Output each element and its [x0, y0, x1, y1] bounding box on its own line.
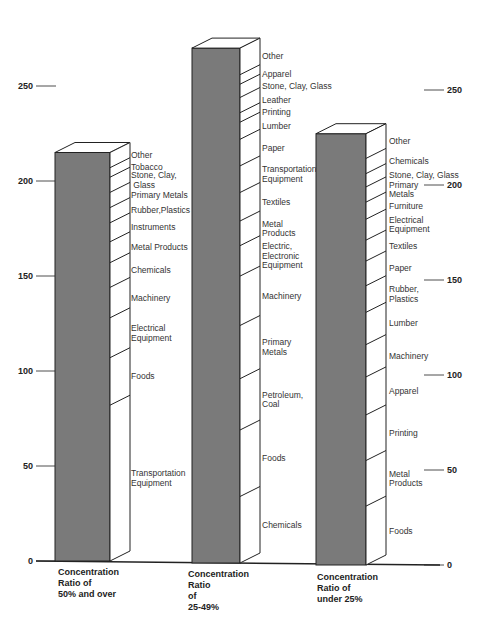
segment-label: Chemicals	[131, 265, 171, 275]
segment-label: Other	[131, 150, 152, 160]
y-tick-label: 100	[18, 366, 33, 376]
segment-label: Chemicals	[389, 156, 429, 166]
segment-label: Foods	[131, 371, 155, 381]
column-front	[55, 153, 110, 562]
segment-label: TransportationEquipment	[131, 468, 186, 488]
left-y-axis: 050100150200250	[18, 81, 56, 566]
column-side	[366, 124, 386, 565]
columns: TransportationEquipmentFoodsElectricalEq…	[55, 38, 459, 565]
segment-label: Other	[389, 136, 410, 146]
segment-label: Electric,ElectronicEquipment	[262, 241, 303, 270]
segment-label: Paper	[389, 263, 412, 273]
y-tick-label: 150	[18, 271, 33, 281]
segment-label: Stone, Clay, Glass	[262, 81, 332, 91]
segment-label: PrimaryMetals	[389, 180, 419, 200]
y-tick-label: 200	[447, 180, 462, 190]
column: FoodsMetalProductsPrintingApparelMachine…	[316, 124, 459, 565]
y-tick-label: 150	[447, 275, 462, 285]
segment-label: Textiles	[389, 241, 417, 251]
column-front	[316, 134, 366, 565]
segment-label: Instruments	[131, 222, 175, 232]
segment-label: Printing	[389, 428, 418, 438]
column-front	[192, 48, 240, 563]
right-y-axis: 050100150200250	[424, 85, 462, 570]
segment-label: TransportationEquipment	[262, 164, 317, 184]
segment-label: Machinery	[131, 293, 171, 303]
segment-label: Rubber,Plastics	[389, 284, 419, 304]
category-label: ConcentrationRatioof25-49%	[188, 569, 249, 612]
segment-label: Petroleum,Coal	[262, 390, 303, 410]
segment-label: Leather	[262, 95, 291, 105]
column-side	[110, 143, 130, 562]
category-labels: ConcentrationRatio of50% and overConcent…	[58, 567, 378, 612]
y-tick-label: 50	[23, 461, 33, 471]
segment-label: Paper	[262, 143, 285, 153]
segment-label: MetalProducts	[262, 219, 296, 239]
segment-label: Foods	[262, 453, 286, 463]
segment-label: Stone, Clay, Glass	[131, 170, 177, 190]
column: ChemicalsFoodsPetroleum,CoalPrimaryMetal…	[192, 38, 332, 563]
segment-label: ElectricalEquipment	[389, 215, 430, 235]
segment-label: Furniture	[389, 201, 423, 211]
segment-label: Other	[262, 51, 283, 61]
segment-label: Primary Metals	[131, 190, 188, 200]
segment-label: Printing	[262, 107, 291, 117]
y-tick-label: 0	[28, 556, 33, 566]
segment-label: Chemicals	[262, 520, 302, 530]
segment-label: Tobacco	[131, 162, 163, 172]
segment-label: Foods	[389, 526, 413, 536]
segment-label: Metal Products	[131, 242, 188, 252]
y-tick-label: 0	[447, 560, 452, 570]
category-label: ConcentrationRatio of50% and over	[58, 567, 119, 599]
segment-label: Lumber	[262, 121, 291, 131]
y-tick-label: 200	[18, 176, 33, 186]
segment-label: Lumber	[389, 318, 418, 328]
segment-label: PrimaryMetals	[262, 337, 292, 357]
segment-label: MetalProducts	[389, 469, 423, 489]
segment-label: ElectricalEquipment	[131, 323, 172, 343]
category-label: ConcentrationRatio ofunder 25%	[317, 572, 378, 604]
segment-label: Machinery	[262, 291, 302, 301]
segment-label: Apparel	[389, 386, 418, 396]
segment-label: Stone, Clay, Glass	[389, 170, 459, 180]
segment-label: Apparel	[262, 69, 291, 79]
segment-label: Rubber,Plastics	[131, 205, 190, 215]
y-tick-label: 250	[18, 81, 33, 91]
segment-label: Textiles	[262, 197, 290, 207]
y-tick-label: 100	[447, 370, 462, 380]
column: TransportationEquipmentFoodsElectricalEq…	[55, 143, 190, 562]
y-tick-label: 50	[447, 465, 457, 475]
segment-label: Machinery	[389, 351, 429, 361]
y-tick-label: 250	[447, 85, 462, 95]
stacked-column-chart: 050100150200250 050100150200250 Transpor…	[0, 0, 484, 621]
